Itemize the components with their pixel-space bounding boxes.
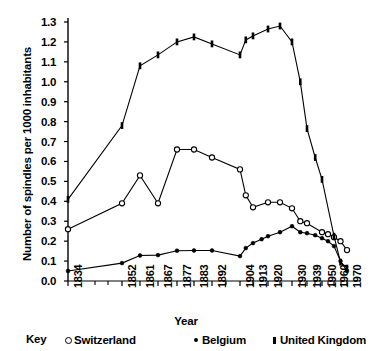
x-tick-label: 1950	[327, 265, 338, 288]
data-point-marker	[333, 233, 336, 240]
data-point-marker	[155, 201, 160, 206]
chart-legend: Key SwitzerlandBelgiumUnited Kingdom	[0, 332, 372, 350]
x-tick-label: 1852	[127, 265, 138, 288]
data-point-marker	[289, 206, 294, 211]
data-point-marker	[267, 26, 270, 33]
legend-entry: Switzerland	[62, 333, 136, 346]
legend-entry: Belgium	[190, 333, 246, 346]
data-point-marker	[139, 62, 142, 69]
x-tick-label: 1930	[297, 265, 308, 288]
data-point-marker	[326, 239, 330, 243]
data-point-marker	[298, 219, 303, 224]
data-point-marker	[332, 244, 336, 248]
x-tick-label: 1867	[163, 265, 174, 288]
data-point-marker	[304, 221, 309, 226]
data-point-marker	[278, 230, 282, 234]
data-point-marker	[314, 154, 317, 161]
data-point-marker	[279, 23, 282, 30]
data-point-marker	[306, 125, 309, 132]
data-point-marker	[260, 237, 264, 241]
legend-entry-label: Belgium	[202, 334, 246, 346]
data-point-marker	[344, 248, 349, 253]
data-point-marker	[320, 236, 324, 240]
data-point-marker	[66, 269, 70, 273]
legend-entry-label: United Kingdom	[280, 334, 366, 346]
data-point-marker	[209, 155, 214, 160]
x-tick-label: 1892	[217, 265, 228, 288]
data-point-marker	[65, 227, 70, 232]
data-point-marker	[191, 147, 196, 152]
data-point-marker	[193, 34, 196, 41]
data-point-marker	[237, 167, 242, 172]
legend-entry: United Kingdom	[268, 333, 366, 346]
data-point-marker	[175, 249, 179, 253]
legend-entry-label: Switzerland	[74, 334, 136, 346]
x-tick-label: 1861	[145, 265, 156, 288]
plot-area	[0, 0, 372, 351]
data-point-marker	[120, 261, 124, 265]
data-point-marker	[266, 234, 270, 238]
data-point-marker	[298, 230, 302, 234]
x-tick-label: 1834	[73, 265, 84, 288]
data-point-marker	[252, 33, 255, 40]
chart-figure: Number of spindles per 1000 inhabitants …	[0, 0, 372, 351]
data-point-marker	[299, 78, 302, 85]
data-point-marker	[119, 201, 124, 206]
legend-marker-filled-bar-icon	[268, 334, 280, 346]
data-point-marker	[277, 200, 282, 205]
data-point-marker	[245, 37, 248, 44]
x-tick-label: 1904	[245, 265, 256, 288]
data-point-marker	[305, 231, 309, 235]
data-point-marker	[210, 249, 214, 253]
x-tick-label: 1970	[352, 265, 363, 288]
series-switzerland	[65, 147, 349, 253]
x-tick-label: 1883	[199, 265, 210, 288]
data-point-marker	[176, 39, 179, 46]
data-point-marker	[250, 205, 255, 210]
x-axis-title: Year	[0, 315, 372, 327]
legend-marker-filled-dot-icon	[190, 334, 202, 346]
data-point-marker	[121, 122, 124, 129]
x-tick-label: 1939	[312, 265, 323, 288]
x-tick-label: 1960	[339, 265, 350, 288]
data-point-marker	[244, 246, 248, 250]
data-point-marker	[313, 233, 317, 237]
data-point-marker	[265, 200, 270, 205]
data-point-marker	[251, 241, 255, 245]
x-tick-label: 1920	[273, 265, 284, 288]
data-point-marker	[243, 193, 248, 198]
data-point-marker	[211, 41, 214, 48]
data-point-marker	[156, 253, 160, 257]
plot-svg	[0, 0, 372, 351]
data-point-marker	[238, 254, 242, 258]
data-point-marker	[319, 230, 324, 235]
data-point-marker	[321, 176, 324, 183]
data-point-marker	[174, 147, 179, 152]
data-point-marker	[290, 224, 294, 228]
data-point-marker	[239, 52, 242, 59]
x-tick-label: 1913	[258, 265, 269, 288]
legend-marker-open-circle-icon	[62, 334, 74, 346]
data-point-marker	[137, 173, 142, 178]
legend-title: Key	[26, 333, 47, 345]
data-point-marker	[138, 254, 142, 258]
x-tick-label: 1877	[182, 265, 193, 288]
data-point-marker	[291, 39, 294, 46]
data-point-marker	[157, 52, 160, 59]
data-point-marker	[325, 232, 330, 237]
data-point-marker	[67, 196, 70, 203]
data-point-marker	[192, 249, 196, 253]
data-point-marker	[338, 239, 343, 244]
series-line	[68, 150, 347, 251]
series-line	[68, 26, 347, 268]
